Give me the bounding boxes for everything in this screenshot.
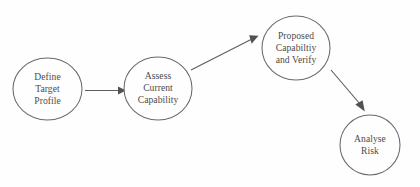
flowchart-diagram: Define Target Profile Assess Current Cap… <box>0 0 420 187</box>
edge-proposed-to-analyse <box>331 70 365 112</box>
node-label-line2-analyse-risk: Risk <box>361 145 379 156</box>
arrowhead-icon-proposed-to-analyse <box>355 100 365 111</box>
node-label-line3-define-target-profile: Profile <box>34 95 60 106</box>
node-label-line1-define-target-profile: Define <box>34 71 60 82</box>
node-define-target-profile[interactable]: Define Target Profile <box>13 58 82 120</box>
node-label-line1-proposed-capability-and-verify: Proposed <box>278 30 314 41</box>
node-label-line1-assess-current-capability: Assess <box>145 70 172 81</box>
edge-line-assess-to-proposed <box>191 40 251 71</box>
node-label-line2-proposed-capability-and-verify: Capabiltiy <box>276 42 317 53</box>
node-analyse-risk[interactable]: Analyse Risk <box>340 115 400 175</box>
edge-define-to-assess <box>85 87 126 95</box>
node-proposed-capability-and-verify[interactable]: Proposed Capabiltiy and Verify <box>262 16 330 80</box>
edge-line-proposed-to-analyse <box>331 70 360 104</box>
node-label-line3-assess-current-capability: Capability <box>138 94 179 105</box>
node-label-line1-analyse-risk: Analyse <box>354 133 386 144</box>
node-label-line2-assess-current-capability: Current <box>143 82 173 93</box>
node-label-line3-proposed-capability-and-verify: and Verify <box>276 54 317 65</box>
node-label-line2-define-target-profile: Target <box>35 83 60 94</box>
arrowhead-icon-assess-to-proposed <box>249 35 258 44</box>
node-assess-current-capability[interactable]: Assess Current Capability <box>124 57 192 120</box>
flowchart-canvas: Define Target Profile Assess Current Cap… <box>0 0 420 187</box>
edge-assess-to-proposed <box>191 35 259 70</box>
